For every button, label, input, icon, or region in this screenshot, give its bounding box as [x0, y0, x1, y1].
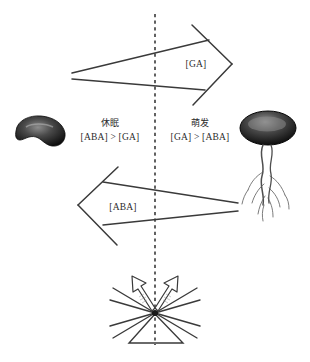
ga-arrow-label: [GA] — [0, 58, 310, 71]
germination-state-label: 萌发 [GA] > [ABA] — [152, 117, 248, 144]
aba-arrow-label: [ABA] — [0, 201, 310, 214]
dormant-seed — [16, 116, 65, 146]
diagram-canvas — [0, 0, 310, 362]
dormancy-title: 休眠 — [62, 117, 158, 129]
dormancy-state-label: 休眠 [ABA] > [GA] — [62, 117, 158, 144]
dormancy-ratio: [ABA] > [GA] — [62, 131, 158, 144]
seed-hormone-balance-diagram: [GA] [ABA] 休眠 [ABA] > [GA] 萌发 [GA] > [AB… — [0, 0, 310, 362]
germination-title: 萌发 — [152, 117, 248, 129]
signal-convergence-burst — [110, 288, 200, 343]
germination-ratio: [GA] > [ABA] — [152, 131, 248, 144]
